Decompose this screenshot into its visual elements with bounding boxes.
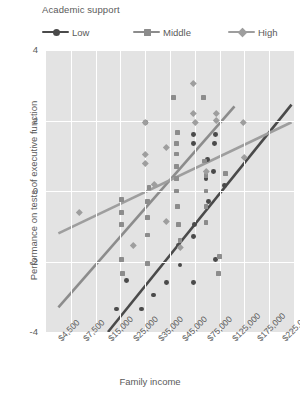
- data-point-middle: [204, 204, 209, 209]
- data-point-middle: [119, 257, 124, 262]
- legend-label-low: Low: [72, 27, 89, 38]
- data-point-middle: [174, 189, 179, 194]
- grid-line-horizontal: [46, 50, 294, 51]
- data-point-low: [191, 132, 196, 137]
- data-point-middle: [174, 176, 179, 181]
- y-tick-label: -2: [0, 256, 38, 267]
- data-point-middle: [175, 130, 180, 135]
- data-point-middle: [119, 222, 124, 227]
- data-point-middle: [216, 271, 221, 276]
- data-point-middle: [171, 95, 176, 100]
- data-point-middle: [217, 254, 222, 259]
- data-point-middle: [145, 215, 150, 220]
- data-point-middle: [176, 222, 181, 227]
- data-point-middle: [204, 189, 209, 194]
- data-point-low: [211, 169, 216, 174]
- data-point-middle: [119, 210, 124, 215]
- data-point-middle: [174, 152, 179, 157]
- data-point-middle: [178, 238, 183, 243]
- legend: Low Middle High: [42, 25, 294, 39]
- scatter-chart: Academic support Low Middle High Perform…: [0, 0, 300, 397]
- grid-line-horizontal: [46, 262, 294, 263]
- data-point-middle: [145, 261, 150, 266]
- data-point-middle: [175, 204, 180, 209]
- data-point-middle: [223, 171, 228, 176]
- legend-title: Academic support: [42, 4, 120, 15]
- data-point-low: [212, 141, 217, 146]
- legend-key-middle: [133, 27, 160, 37]
- legend-label-high: High: [258, 27, 278, 38]
- data-point-middle: [174, 141, 179, 146]
- y-tick-label: 0: [0, 185, 38, 196]
- legend-item-low[interactable]: Low: [42, 25, 89, 39]
- data-point-middle: [201, 95, 206, 100]
- data-point-middle: [119, 197, 124, 202]
- legend-key-low: [42, 27, 69, 37]
- y-axis-ticks: 420-2-4: [0, 0, 46, 397]
- data-point-middle: [120, 271, 125, 276]
- grid-line-horizontal: [46, 191, 294, 192]
- y-tick-label: 2: [0, 115, 38, 126]
- data-point-middle: [202, 159, 207, 164]
- data-point-low: [191, 280, 196, 285]
- legend-item-high[interactable]: High: [228, 25, 278, 39]
- data-point-low: [191, 141, 196, 146]
- y-tick-label: -4: [0, 326, 38, 337]
- grid-line-horizontal: [46, 121, 294, 122]
- data-point-middle: [204, 220, 209, 225]
- plot-area: [46, 50, 294, 332]
- data-point-middle: [147, 185, 152, 190]
- y-tick-label: 4: [0, 44, 38, 55]
- legend-item-middle[interactable]: Middle: [133, 25, 191, 39]
- legend-label-middle: Middle: [163, 27, 191, 38]
- data-point-middle: [174, 164, 179, 169]
- legend-key-high: [228, 27, 255, 37]
- data-point-middle: [145, 233, 150, 238]
- data-point-middle: [145, 199, 150, 204]
- data-point-low: [206, 199, 211, 204]
- data-point-low: [164, 280, 169, 285]
